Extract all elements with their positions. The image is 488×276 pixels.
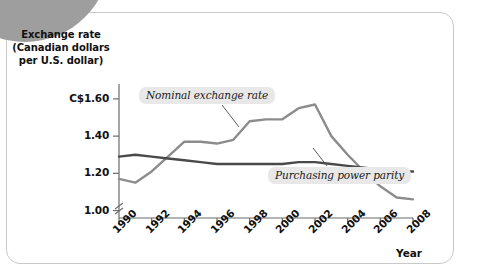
y-axis-tick-label: 1.40 xyxy=(45,129,109,141)
y-axis-tick-label: C$1.60 xyxy=(45,92,109,104)
y-axis-tick-label: 1.20 xyxy=(45,166,109,178)
series-line-nominal-exchange-rate xyxy=(119,104,413,199)
data-series xyxy=(119,104,413,199)
axes xyxy=(115,84,413,218)
series-label-nominal-exchange-rate: Nominal exchange rate xyxy=(139,87,275,104)
y-axis-tick-label: 1.00 xyxy=(45,204,109,216)
x-axis-title: Year xyxy=(396,247,422,259)
y-axis-ticks xyxy=(113,99,119,211)
leader-line-nominal xyxy=(222,105,239,127)
chart-figure: Exchange rate (Canadian dollars per U.S.… xyxy=(0,0,488,276)
series-label-purchasing-power-parity: Purchasing power parity xyxy=(268,167,411,184)
